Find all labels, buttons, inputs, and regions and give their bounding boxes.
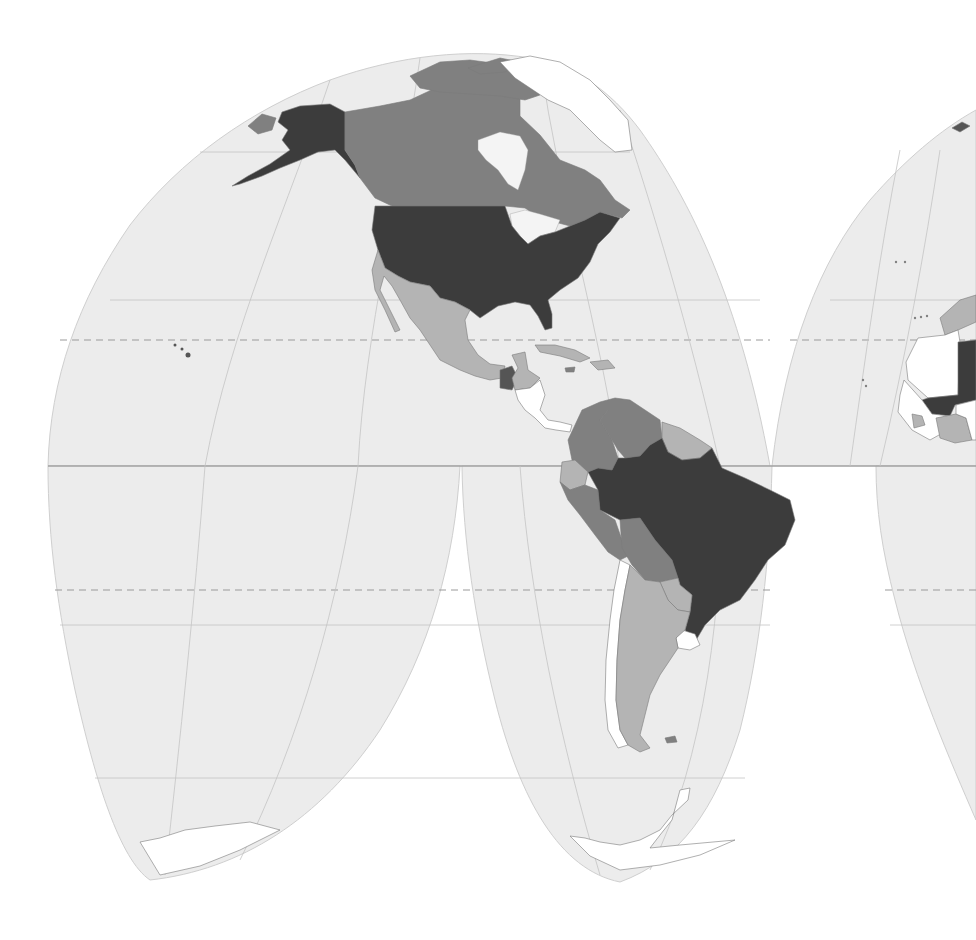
- lobe-south-pacific: [48, 466, 460, 880]
- region-jamaica: [565, 367, 575, 372]
- lobe-africa-south: [876, 466, 976, 820]
- world-map: [0, 0, 976, 940]
